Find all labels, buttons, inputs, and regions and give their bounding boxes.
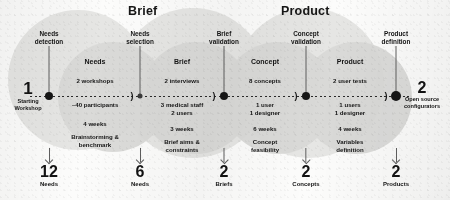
final-output-caption-line1: Open source (404, 96, 440, 103)
deliverable-label: Needs (40, 181, 58, 188)
chevron-right-icon: ) (213, 91, 216, 101)
milestone-label-line1: Concept (293, 30, 319, 37)
milestone-node[interactable] (391, 91, 401, 101)
start-number: 1 (14, 80, 41, 97)
deliverable-concepts: 2 Concepts (292, 148, 319, 188)
chevron-right-icon: ) (295, 91, 298, 101)
deliverable-label: Products (383, 181, 409, 188)
arrow-down-icon (395, 148, 396, 162)
phase-header-product: Product (281, 4, 330, 18)
start-caption-line2: Workshop (14, 105, 41, 112)
arrow-down-icon (139, 148, 140, 162)
step-detail-line2: ~40 participants (47, 101, 143, 109)
step-brief: Brief 2 interviews (134, 58, 230, 85)
final-output-caption-line2: configurators (404, 103, 440, 110)
step-detail-line3: 1 designer (302, 109, 398, 117)
arrow-down-icon (306, 148, 307, 162)
step-outcome-line1: Brainstorming & (47, 133, 143, 141)
milestone-node[interactable] (138, 94, 143, 99)
step-duration: 4 weeks (302, 125, 398, 132)
step-needs-below: ~40 participants 4 weeks Brainstorming &… (47, 101, 143, 149)
step-outcome-line1: Variables (302, 138, 398, 146)
step-duration: 4 weeks (47, 120, 143, 127)
milestone-label-line2: validation (209, 38, 239, 45)
final-output: 2 Open source configurators (404, 80, 440, 110)
deliverable-briefs: 2 Briefs (215, 148, 232, 188)
deliverable-needs-selected: 6 Needs (131, 148, 149, 188)
deliverable-products: 2 Products (383, 148, 409, 188)
step-outcome-line2: benchmark (47, 141, 143, 149)
step-brief-below: 3 medical staff 2 users 3 weeks Brief ai… (134, 101, 230, 154)
step-detail-line1: 2 user tests (302, 77, 398, 85)
deliverable-needs: 12 Needs (40, 148, 58, 188)
milestone-label-line2: definition (382, 38, 411, 45)
milestone-stem (49, 46, 50, 94)
step-detail-line1: 2 workshops (47, 77, 143, 85)
milestone-stem (140, 46, 141, 94)
step-detail-line3: 1 designer (217, 109, 313, 117)
deliverable-count: 12 (40, 164, 58, 181)
milestone-label-line2: selection (126, 38, 154, 45)
step-detail-line2: 1 users (302, 101, 398, 109)
step-phase-name: Brief (134, 58, 230, 65)
chevron-right-icon: ) (131, 91, 134, 101)
deliverable-count: 2 (215, 164, 232, 181)
arrow-down-icon (48, 148, 49, 162)
deliverable-count: 6 (131, 164, 149, 181)
deliverable-label: Concepts (292, 181, 319, 188)
step-outcome-line1: Brief aims & (134, 138, 230, 146)
step-product-below: 1 users 1 designer 4 weeks Variables def… (302, 101, 398, 154)
step-detail-line2: 1 user (217, 101, 313, 109)
deliverable-label: Needs (131, 181, 149, 188)
final-output-count: 2 (404, 80, 440, 96)
step-product: Product 2 user tests (302, 58, 398, 85)
deliverable-label: Briefs (215, 181, 232, 188)
step-phase-name: Needs (47, 58, 143, 65)
chevron-right-icon: ) (385, 91, 388, 101)
start-caption-line1: Starting (14, 98, 41, 105)
milestone-node[interactable] (45, 92, 53, 100)
milestone-label-line2: validation (291, 38, 321, 45)
step-detail-line2: 3 medical staff (134, 101, 230, 109)
milestone-stem (306, 46, 307, 94)
deliverable-count: 2 (292, 164, 319, 181)
phase-header-brief: Brief (128, 4, 157, 18)
step-needs: Needs 2 workshops (47, 58, 143, 85)
deliverable-count: 2 (383, 164, 409, 181)
step-detail-line1: 2 interviews (134, 77, 230, 85)
milestone-stem (224, 46, 225, 94)
step-concept: Concept 8 concepts (217, 58, 313, 85)
step-duration: 3 weeks (134, 125, 230, 132)
milestone-node[interactable] (220, 92, 228, 100)
milestone-label-line1: Brief (217, 30, 232, 37)
step-phase-name: Product (302, 58, 398, 65)
milestone-node[interactable] (302, 92, 310, 100)
milestone-label-line1: Needs (39, 30, 58, 37)
milestone-label-line1: Product (384, 30, 408, 37)
milestone-label-line2: detection (35, 38, 63, 45)
milestone-stem (396, 46, 397, 94)
arrow-down-icon (223, 148, 224, 162)
start-marker: 1 Starting Workshop (14, 80, 41, 112)
step-phase-name: Concept (217, 58, 313, 65)
process-timeline-diagram: Brief Product 1 Starting Workshop Needs … (0, 0, 450, 200)
milestone-label-line1: Needs (130, 30, 149, 37)
step-detail-line1: 8 concepts (217, 77, 313, 85)
step-duration: 6 weeks (217, 125, 313, 132)
step-concept-below: 1 user 1 designer 6 weeks Concept feasib… (217, 101, 313, 154)
step-detail-line3: 2 users (134, 109, 230, 117)
step-outcome-line1: Concept (217, 138, 313, 146)
